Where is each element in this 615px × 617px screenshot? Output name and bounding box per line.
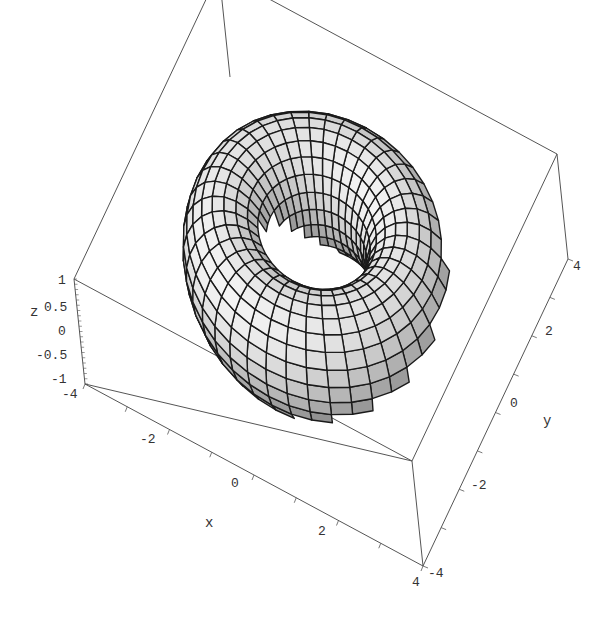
- z-tick-label: -1: [51, 372, 67, 387]
- y-tick-label: 2: [545, 324, 553, 339]
- z-tick-label: -0.5: [36, 348, 67, 363]
- x-axis-label: x: [205, 515, 213, 531]
- x-tick-label: 4: [412, 575, 420, 590]
- y-tick-label: 4: [573, 259, 581, 274]
- y-axis-label: y: [543, 413, 551, 429]
- x-tick-label: 0: [231, 476, 239, 491]
- torus-surface-mesh: [183, 111, 449, 422]
- y-tick-label: -2: [471, 478, 487, 493]
- x-tick-label: -2: [140, 432, 156, 447]
- y-tick-label: 0: [510, 396, 518, 411]
- z-tick-label: 1: [58, 273, 66, 288]
- z-tick-label: 0: [58, 324, 66, 339]
- x-min-tick-label: -4: [62, 387, 78, 402]
- x-tick-label: 2: [318, 524, 326, 539]
- z-axis-label: z: [30, 304, 38, 320]
- z-tick-label: 0.5: [44, 300, 67, 315]
- torus-3d-plot: 1 0.5 0 -0.5 -1 z -4 -2 0 2 4 x -4 -2 0 …: [0, 0, 615, 617]
- y-tick-label: -4: [428, 566, 444, 581]
